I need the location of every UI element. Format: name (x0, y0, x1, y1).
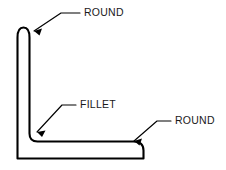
callout-round-top: ROUND (34, 6, 124, 36)
engineering-drawing-figure: ROUND FILLET ROUND (0, 0, 226, 170)
callout-label-fillet: FILLET (80, 98, 116, 110)
callout-round-right: ROUND (134, 114, 215, 146)
arrowhead-fillet-icon (37, 131, 46, 138)
leader-line-fillet (37, 105, 76, 132)
callout-label-round-top: ROUND (84, 6, 124, 18)
part-outline-angle-bracket (18, 28, 144, 159)
callout-fillet: FILLET (37, 98, 116, 137)
leader-line-round-right (134, 121, 171, 141)
leader-line-round-top (34, 13, 80, 31)
callout-label-round-right: ROUND (175, 114, 215, 126)
drawing-canvas: ROUND FILLET ROUND (0, 0, 226, 170)
